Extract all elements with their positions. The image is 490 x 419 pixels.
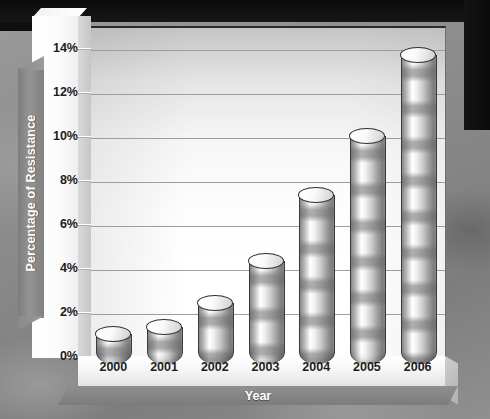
bar-cylinder-body (249, 261, 285, 364)
bar-cylinder (96, 326, 130, 364)
x-tick-label: 2002 (201, 360, 229, 374)
bar-cylinder-top (197, 295, 233, 311)
y-axis-tick-step (78, 224, 91, 225)
y-axis-tick-step (78, 136, 91, 137)
bar-cylinder (401, 47, 435, 364)
y-axis-tick-step (78, 312, 91, 313)
x-tick-label: 2001 (150, 360, 178, 374)
y-tick-label: 14% (34, 41, 78, 55)
y-axis-depth-face (78, 16, 91, 358)
x-axis-title: Year (245, 389, 271, 403)
bar-cylinder (350, 128, 384, 364)
bar-cylinder (299, 187, 333, 364)
chart-screenshot: 0%2%4%6%8%10%12%14% 20002001200220032004… (0, 0, 490, 419)
y-axis-title: Percentage of Resistance (18, 68, 44, 318)
x-tick-label: 2004 (302, 360, 330, 374)
y-axis-tick-step (78, 48, 91, 49)
chart-3d-container: 0%2%4%6%8%10%12%14% 20002001200220032004… (18, 8, 473, 406)
bar-cylinder-body (401, 55, 437, 364)
gridline (90, 226, 445, 227)
x-axis-title-banner: Year (58, 386, 458, 405)
gridline (90, 50, 445, 51)
bar-cylinder-top (349, 128, 385, 144)
y-axis-title-banner: Percentage of Resistance (18, 68, 44, 318)
y-axis-tick-step (78, 268, 91, 269)
gridline (90, 94, 445, 95)
bar-cylinder-body (198, 303, 234, 364)
bar-cylinder (198, 295, 232, 364)
gridline (90, 182, 445, 183)
y-axis-tick-step (78, 180, 91, 181)
x-tick-label: 2000 (99, 360, 127, 374)
bar-cylinder (147, 319, 181, 364)
bar-cylinder-top (400, 47, 436, 63)
x-tick-label: 2005 (353, 360, 381, 374)
y-axis-tick-step (78, 92, 91, 93)
bar-cylinder-body (299, 195, 335, 364)
x-tick-label: 2003 (252, 360, 280, 374)
bar-cylinder (249, 253, 283, 364)
bar-cylinder-body (350, 136, 386, 364)
gridline (90, 138, 445, 139)
x-tick-label: 2006 (404, 360, 432, 374)
y-tick-label: 0% (34, 349, 78, 363)
